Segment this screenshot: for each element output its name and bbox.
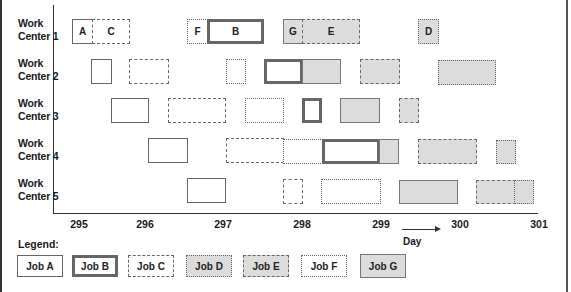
legend-label: Job D: [195, 261, 223, 272]
legend-job-g: Job G: [360, 254, 406, 278]
row-label-work-center-3: Work Center 3: [18, 97, 58, 123]
wc1-job-g-bar: G: [283, 19, 303, 44]
bar-label: C: [107, 26, 114, 37]
wc5-job-e-bar: [476, 180, 516, 204]
wc2-job-e-bar: [360, 59, 400, 84]
legend-job-e: Job E: [243, 255, 289, 277]
bar-label: A: [79, 26, 86, 37]
legend-job-c: Job C: [128, 255, 174, 277]
legend-label: Job C: [137, 261, 165, 272]
wc3-job-g-bar: [340, 98, 380, 123]
wc1-job-b-bar: B: [207, 19, 264, 44]
x-tick-296: 296: [136, 218, 154, 230]
wc3-job-c-bar: [168, 98, 226, 123]
row-label-line1: Work: [18, 177, 58, 190]
legend-job-f: Job F: [301, 255, 347, 277]
legend-label: Job A: [26, 261, 53, 272]
x-axis-label: Day: [403, 236, 421, 247]
legend-job-a: Job A: [17, 255, 63, 277]
arrow-right-icon: [402, 229, 436, 230]
wc1-job-e-bar: E: [302, 19, 360, 44]
row-label-work-center-1: Work Center 1: [18, 17, 58, 43]
wc4-job-b-bar: [322, 139, 380, 164]
wc4-job-g-bar: [379, 139, 399, 164]
row-label-line2: Center 5: [18, 190, 58, 203]
legend-job-b: Job B: [72, 255, 118, 277]
row-label-line2: Center 2: [18, 70, 58, 83]
wc2-job-d-bar: [438, 60, 496, 85]
legend-label: Job F: [311, 261, 338, 272]
row-label-line1: Work: [18, 57, 58, 70]
wc3-job-b-bar: [302, 98, 322, 123]
legend-job-d: Job D: [186, 255, 232, 277]
wc1-job-d-bar: D: [418, 19, 439, 44]
row-label-line1: Work: [18, 97, 58, 110]
wc2-job-f-bar: [226, 59, 246, 84]
x-tick-298: 298: [293, 218, 311, 230]
x-tick-295: 295: [70, 218, 88, 230]
wc4-job-c-bar: [226, 138, 284, 163]
wc1-job-c-bar: C: [92, 19, 130, 44]
bar-label: E: [328, 26, 335, 37]
legend-title: Legend:: [18, 238, 59, 250]
legend-label: Job B: [81, 261, 109, 272]
wc4-job-a-bar: [148, 138, 188, 163]
legend-label: Job E: [252, 261, 279, 272]
row-label-work-center-2: Work Center 2: [18, 57, 58, 83]
wc5-job-g-bar: [399, 180, 458, 204]
bar-label: F: [194, 26, 200, 37]
row-label-line2: Center 3: [18, 110, 58, 123]
bar-label: B: [232, 26, 239, 37]
wc1-job-a-bar: A: [72, 19, 93, 44]
x-tick-297: 297: [214, 218, 232, 230]
x-tick-301: 301: [530, 218, 548, 230]
wc2-job-g-bar: [302, 59, 341, 84]
row-label-line1: Work: [18, 137, 58, 150]
x-tick-300: 300: [451, 218, 469, 230]
row-label-line1: Work: [18, 17, 58, 30]
x-axis-line: [53, 213, 538, 214]
wc2-job-a-bar: [91, 59, 112, 84]
wc4-job-e-bar: [418, 139, 477, 164]
bar-label: G: [289, 26, 297, 37]
wc3-job-f-bar: [245, 98, 284, 123]
wc5-job-a-bar: [187, 178, 226, 203]
x-tick-299: 299: [372, 218, 390, 230]
bar-label: D: [425, 26, 432, 37]
wc2-job-c-bar: [129, 59, 169, 84]
wc2-job-b-bar: [264, 59, 303, 84]
row-label-work-center-4: Work Center 4: [18, 137, 58, 163]
wc5-job-d-bar: [514, 180, 534, 204]
row-label-line2: Center 1: [18, 30, 58, 43]
row-label-work-center-5: Work Center 5: [18, 177, 58, 203]
wc4-job-f-bar: [283, 139, 323, 164]
legend-label: Job G: [369, 261, 397, 272]
wc5-job-c-bar: [283, 179, 303, 204]
wc4-job-d-bar: [496, 140, 516, 164]
wc1-job-f-bar: F: [187, 19, 208, 44]
row-label-line2: Center 4: [18, 150, 58, 163]
wc3-job-e-bar: [399, 98, 419, 123]
wc3-job-a-bar: [111, 98, 149, 123]
wc5-job-f-bar: [321, 179, 381, 204]
